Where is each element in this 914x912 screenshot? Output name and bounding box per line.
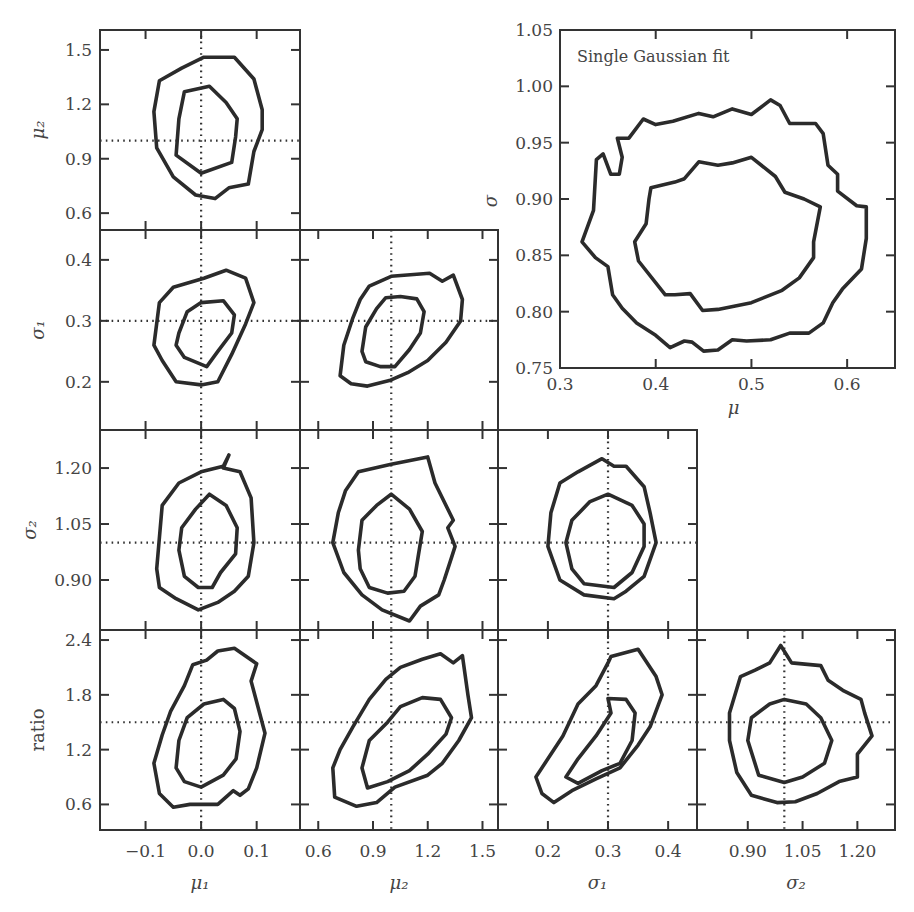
panel-sigma_2-vs-ratio (697, 630, 895, 830)
inset-background (560, 30, 895, 368)
y-tick-label: 0.4 (65, 250, 92, 270)
inset-y-tick-label: 0.85 (515, 245, 553, 265)
y-axis-labels: 0.60.91.21.5μ₂0.20.30.4σ₁0.901.051.20σ₂0… (19, 40, 92, 814)
panel-mu_1-vs-sigma_1 (100, 230, 300, 430)
corner-plot-figure: 0.60.91.21.5μ₂0.20.30.4σ₁0.901.051.20σ₂0… (0, 0, 914, 912)
inset-x-tick-label: 0.5 (738, 374, 765, 394)
inset-x-tick-label: 0.6 (834, 374, 861, 394)
y-tick-label: 1.20 (54, 458, 92, 478)
panel-frame (100, 430, 300, 630)
panel-frame (300, 630, 498, 830)
x-axis-label: μ₂ (390, 872, 409, 893)
x-tick-label: 1.20 (838, 841, 876, 861)
panel-mu_1-vs-mu_2 (100, 30, 300, 230)
x-tick-label: 0.3 (594, 841, 621, 861)
contour-outer (548, 459, 656, 599)
x-tick-label: 0.0 (188, 841, 215, 861)
inset-y-tick-label: 0.95 (515, 133, 553, 153)
contour-outer (333, 654, 472, 807)
y-tick-label: 1.2 (65, 740, 92, 760)
panel-frame (300, 430, 498, 630)
contour-inner (358, 494, 422, 593)
panel-mu_1-vs-ratio (100, 630, 300, 830)
contour-inner (176, 699, 240, 787)
contour-outer (333, 457, 455, 621)
y-tick-label: 1.8 (65, 685, 92, 705)
x-axis-label: σ₁ (588, 872, 608, 893)
panel-frame (100, 230, 300, 430)
contour-outer (154, 57, 262, 198)
contour-inner (362, 297, 424, 367)
x-tick-label: 1.2 (414, 841, 441, 861)
x-tick-label: 1.05 (784, 841, 822, 861)
contour-inner (176, 301, 234, 367)
x-axis-labels: −0.10.00.1μ₁0.60.91.21.5μ₂0.20.30.4σ₁0.9… (125, 841, 876, 893)
inset-x-tick-label: 0.4 (642, 374, 669, 394)
contour-inner (566, 494, 644, 587)
y-tick-label: 1.2 (65, 94, 92, 114)
panel-sigma_1-vs-ratio (498, 630, 697, 830)
x-tick-label: 0.90 (729, 841, 767, 861)
y-tick-label: 0.6 (65, 794, 92, 814)
y-tick-label: 0.6 (65, 203, 92, 223)
inset-x-axis-label: μ (728, 397, 740, 418)
y-tick-label: 1.5 (65, 40, 92, 60)
y-tick-label: 1.05 (54, 514, 92, 534)
x-tick-label: 0.6 (305, 841, 332, 861)
x-tick-label: 0.2 (534, 841, 561, 861)
contour-inner (362, 698, 452, 788)
x-tick-label: −0.1 (125, 841, 166, 861)
contour-inner (748, 699, 832, 782)
inset-y-tick-label: 1.00 (515, 76, 553, 96)
x-tick-label: 0.4 (655, 841, 682, 861)
x-tick-label: 1.5 (469, 841, 496, 861)
inset-annotation: Single Gaussian fit (577, 47, 730, 66)
panel-sigma_1-vs-sigma_2 (498, 430, 697, 630)
contour-inner (176, 86, 237, 173)
panel-frame (100, 630, 300, 830)
panel-frame (300, 230, 498, 430)
contour-outer (536, 649, 662, 802)
corner-plot-svg: 0.60.91.21.5μ₂0.20.30.4σ₁0.901.051.20σ₂0… (0, 0, 914, 912)
x-tick-label: 0.9 (359, 841, 386, 861)
y-axis-label: ratio (27, 708, 48, 751)
x-axis-label: μ₁ (191, 872, 210, 893)
contour-inner (179, 494, 237, 587)
inset-y-tick-label: 1.05 (515, 20, 553, 40)
panel-mu_2-vs-sigma_1 (300, 230, 498, 430)
y-axis-label: σ₁ (27, 320, 48, 340)
y-tick-label: 0.3 (65, 311, 92, 331)
inset-y-axis-label: σ (480, 194, 501, 207)
x-axis-label: σ₂ (786, 872, 806, 893)
panel-mu_1-vs-sigma_2 (100, 430, 300, 630)
panel-mu_2-vs-ratio (300, 630, 498, 830)
y-tick-label: 0.2 (65, 372, 92, 392)
inset-y-tick-label: 0.90 (515, 189, 553, 209)
contour-outer (340, 273, 462, 386)
y-axis-label: μ₂ (27, 121, 48, 140)
single-gaussian-inset: 0.30.40.50.60.750.800.850.900.951.001.05… (480, 20, 895, 418)
y-axis-label: σ₂ (19, 520, 40, 540)
y-tick-label: 0.9 (65, 149, 92, 169)
inset-y-tick-label: 0.75 (515, 358, 553, 378)
y-tick-label: 2.4 (65, 630, 92, 650)
inset-y-tick-label: 0.80 (515, 302, 553, 322)
contour-outer (154, 270, 254, 385)
panel-frame (498, 630, 697, 830)
panel-mu_2-vs-sigma_2 (300, 430, 498, 630)
x-tick-label: 0.1 (243, 841, 270, 861)
y-tick-label: 0.90 (54, 570, 92, 590)
